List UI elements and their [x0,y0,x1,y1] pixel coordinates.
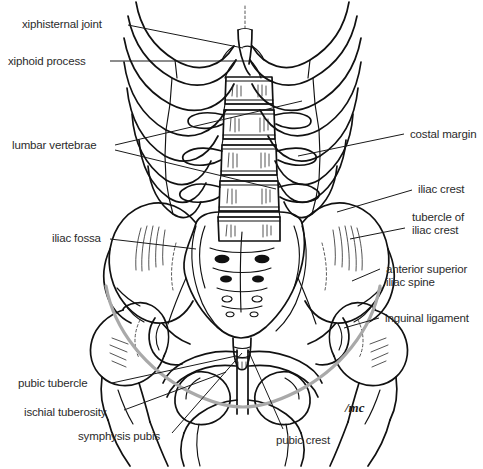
label-pubic-tubercle: pubic tubercle [18,377,88,390]
label-iliac-crest: iliac crest [418,183,464,196]
label-symphysis-pubis: symphysis pubis [78,430,160,443]
label-inguinal-ligament: inguinal ligament [385,312,469,325]
label-lumbar-vertebrae: lumbar vertebrae [12,139,97,152]
sacrum [168,212,316,338]
leader-xiphisternal-joint [128,25,243,48]
label-xiphisternal-joint: xiphisternal joint [22,18,102,31]
label-pubic-crest: pubic crest [276,434,330,447]
sternum-xiphoid [238,6,252,75]
leader-lumbar-vertebrae-b [115,150,276,189]
leader-pubic-crest [248,350,283,429]
label-tubercle-of-iliac-crest: tubercle of iliac crest [412,211,464,236]
leader-inguinal-ligament [344,318,379,328]
artist-signature: /mc [345,400,365,416]
leader-costal-margin [298,134,404,156]
label-costal-margin: costal margin [410,128,476,141]
label-iliac-fossa: iliac fossa [52,232,101,245]
leader-symphysis-pubis [172,353,242,433]
leader-pubic-tubercle [112,356,236,383]
leader-iliac-crest [337,190,412,212]
label-ischial-tuberosity: ischial tuberosity [24,406,106,419]
label-xiphoid-process: xiphoid process [8,55,86,68]
label-anterior-superior-iliac-spine: anterior superior iliac spine [386,263,467,288]
leader-iliac-fossa [110,239,196,249]
anatomy-figure: .k { fill:none; stroke:#111111; stroke-w… [0,0,483,469]
